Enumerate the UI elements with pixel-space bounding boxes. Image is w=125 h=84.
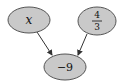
node-fraction: 4 3 (78, 7, 116, 35)
expression-graph: x 4 3 −9 (0, 0, 125, 84)
fraction-denominator: 3 (94, 22, 100, 32)
edge-frac-to-result (78, 34, 87, 55)
node-result-label: −9 (57, 61, 73, 74)
node-result: −9 (44, 54, 86, 80)
edge-x-to-result (37, 32, 52, 55)
node-x: x (8, 7, 50, 33)
fraction-numerator: 4 (94, 10, 100, 20)
node-x-label: x (26, 13, 33, 27)
